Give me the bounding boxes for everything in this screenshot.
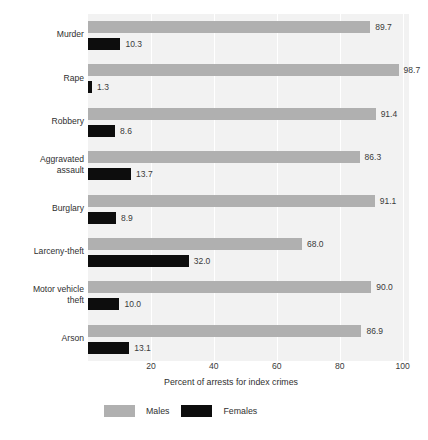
x-tick-label: 100 — [396, 361, 410, 371]
bar-females — [88, 342, 129, 354]
bar-value-males: 98.7 — [404, 64, 421, 76]
legend-label: Males — [146, 406, 169, 416]
bar-males — [88, 151, 360, 163]
x-tick-label: 40 — [209, 361, 219, 371]
bar-females — [88, 125, 115, 137]
bar-group: 98.71.3 — [88, 57, 409, 100]
bar-value-males: 91.4 — [381, 108, 398, 120]
legend-item: Females — [181, 405, 257, 417]
bar-males — [88, 21, 370, 33]
category-label-line: Murder — [0, 29, 84, 40]
category-label-line: Aggravated — [0, 154, 84, 165]
bar-group: 86.313.7 — [88, 144, 409, 187]
category-label: Motor vehicletheft — [0, 284, 84, 306]
x-axis-title: Percent of arrests for index crimes — [0, 377, 428, 387]
category-label-line: Motor vehicle — [0, 284, 84, 295]
bar-value-males: 86.9 — [366, 325, 383, 337]
category-label-line: Larceny-theft — [0, 246, 84, 257]
chart-legend: MalesFemales — [104, 405, 257, 417]
bar-females — [88, 168, 131, 180]
bar-value-males: 90.0 — [376, 281, 393, 293]
category-label: Rape — [0, 73, 84, 84]
plot-area: 89.710.398.71.391.48.686.313.791.18.968.… — [88, 14, 409, 361]
bar-value-females: 13.7 — [136, 168, 153, 180]
bar-value-females: 1.3 — [97, 81, 109, 93]
x-tick-label: 60 — [272, 361, 282, 371]
x-tick-label: 20 — [146, 361, 156, 371]
category-label: Murder — [0, 29, 84, 40]
bar-group: 86.913.1 — [88, 318, 409, 361]
bar-value-females: 8.6 — [120, 125, 132, 137]
bar-value-males: 68.0 — [307, 238, 324, 250]
legend-item: Males — [104, 405, 169, 417]
bar-females — [88, 298, 119, 310]
bar-males — [88, 195, 375, 207]
bar-group: 91.48.6 — [88, 101, 409, 144]
legend-swatch — [104, 405, 135, 417]
bar-value-males: 89.7 — [375, 21, 392, 33]
category-label: Aggravatedassault — [0, 154, 84, 176]
category-label-line: Burglary — [0, 203, 84, 214]
bar-males — [88, 238, 302, 250]
bar-value-females: 32.0 — [194, 255, 211, 267]
bar-value-males: 91.1 — [380, 195, 397, 207]
bar-group: 91.18.9 — [88, 188, 409, 231]
legend-label: Females — [223, 406, 257, 416]
bar-group: 90.010.0 — [88, 274, 409, 317]
y-axis-category-labels: MurderRapeRobberyAggravatedassaultBurgla… — [0, 14, 84, 361]
category-label-line: theft — [0, 295, 84, 306]
bar-females — [88, 38, 120, 50]
bar-females — [88, 255, 189, 267]
category-label-line: Arson — [0, 333, 84, 344]
bar-group: 89.710.3 — [88, 14, 409, 57]
category-label-line: assault — [0, 165, 84, 176]
category-label: Burglary — [0, 203, 84, 214]
category-label: Larceny-theft — [0, 246, 84, 257]
x-axis-ticks: 20406080100 — [88, 361, 409, 377]
category-label-line: Robbery — [0, 116, 84, 127]
category-label: Arson — [0, 333, 84, 344]
bar-chart: MurderRapeRobberyAggravatedassaultBurgla… — [0, 0, 428, 440]
bar-value-females: 13.1 — [134, 342, 151, 354]
bar-group: 68.032.0 — [88, 231, 409, 274]
bar-value-females: 10.0 — [124, 298, 141, 310]
bar-males — [88, 64, 399, 76]
category-label-line: Rape — [0, 73, 84, 84]
bar-value-females: 10.3 — [125, 38, 142, 50]
bar-males — [88, 325, 361, 337]
x-tick-label: 80 — [335, 361, 345, 371]
bar-males — [88, 108, 376, 120]
bar-value-males: 86.3 — [365, 151, 382, 163]
bar-females — [88, 212, 116, 224]
legend-swatch — [181, 405, 212, 417]
bar-males — [88, 281, 371, 293]
bar-females — [88, 81, 92, 93]
bar-value-females: 8.9 — [121, 212, 133, 224]
category-label: Robbery — [0, 116, 84, 127]
